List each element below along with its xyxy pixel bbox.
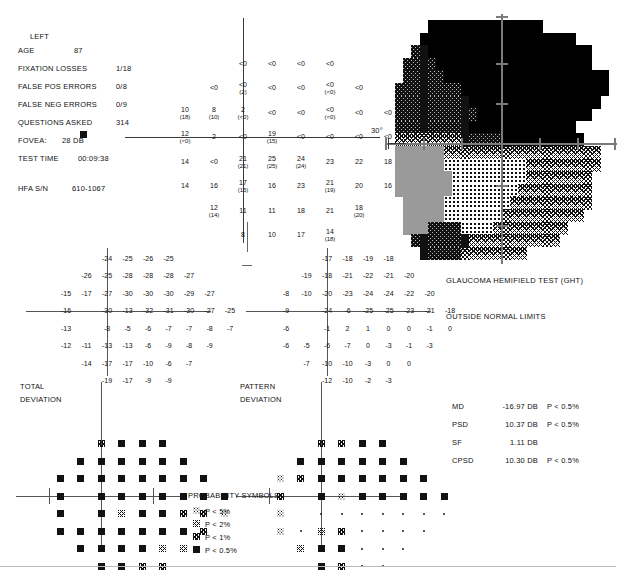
total-deviation-numeric-plot: -24-25-26-25-26-25-28-28-28-27-15-17-27-… — [8, 248, 220, 378]
threshold-value: <0 — [346, 109, 372, 116]
total-deviation-value: -13 — [56, 325, 76, 332]
pattern-deviation-value: -6 — [317, 342, 337, 349]
index-pvalue-cpsd: P < 0.5% — [547, 457, 579, 465]
pattern-deviation-value: 0 — [399, 325, 419, 332]
pattern-deviation-value: -7 — [297, 360, 317, 367]
total-deviation-probability-symbol — [98, 545, 105, 552]
pattern-deviation-value: 1 — [358, 325, 378, 332]
probability-legend-entry: P < 5% — [193, 505, 303, 517]
pattern-deviation-value: -22 — [358, 272, 378, 279]
threshold-retest-value: (18) — [317, 236, 343, 242]
total-deviation-title-line1: TOTAL — [20, 383, 44, 391]
total-deviation-value: -17 — [77, 290, 97, 297]
threshold-value: 16 — [259, 182, 285, 189]
threshold-value: 20 — [346, 182, 372, 189]
pattern-deviation-probability-symbol — [318, 493, 325, 500]
probability-legend-symbol-p2 — [193, 520, 200, 527]
total-deviation-value: -28 — [159, 272, 179, 279]
pattern-deviation-value: -22 — [399, 290, 419, 297]
pattern-deviation-probability-symbol — [297, 458, 304, 465]
total-deviation-probability-symbol — [139, 545, 146, 552]
field-label-hfa-s-n: HFA S/N — [18, 185, 48, 193]
total-deviation-probability-symbol — [57, 528, 64, 535]
total-deviation-probability-symbol — [139, 458, 146, 465]
pattern-deviation-value: -10 — [317, 360, 337, 367]
threshold-value: 10 — [172, 106, 198, 113]
total-deviation-value: -7 — [179, 325, 199, 332]
pattern-deviation-value: -1 — [317, 325, 337, 332]
grayscale-tick-u1 — [496, 63, 508, 65]
index-value-cpsd: 10.30 DB — [482, 457, 538, 465]
probability-legend-entry: P < 1% — [193, 531, 303, 543]
total-deviation-value: -32 — [138, 307, 158, 314]
probability-legend-text: P < 5% — [205, 508, 230, 516]
total-deviation-probability-symbol — [159, 458, 166, 465]
threshold-retest-value: (15) — [230, 187, 256, 193]
pattern-deviation-probability-symbol — [443, 513, 445, 515]
grayscale-tick-r3 — [614, 138, 616, 150]
pattern-deviation-value: -1 — [420, 325, 440, 332]
pattern-deviation-probability-symbol — [382, 513, 384, 515]
pattern-deviation-probability-symbol — [359, 493, 366, 500]
total-deviation-probability-plot — [20, 400, 195, 550]
grayscale-cell — [584, 108, 593, 121]
pattern-deviation-value: 0 — [379, 360, 399, 367]
total-deviation-value: -6 — [138, 342, 158, 349]
total-deviation-probability-symbol — [139, 493, 146, 500]
total-deviation-probability-symbol — [98, 440, 105, 447]
total-deviation-probability-symbol — [159, 440, 166, 447]
grayscale-cell — [567, 33, 576, 46]
total-deviation-value: -9 — [159, 342, 179, 349]
pattern-deviation-probability-symbol — [379, 458, 386, 465]
total-deviation-value: -10 — [138, 360, 158, 367]
pattern-deviation-value: -24 — [358, 290, 378, 297]
pattern-deviation-probability-symbol — [423, 513, 425, 515]
threshold-value: 16 — [201, 182, 227, 189]
threshold-retest-value: (24) — [288, 163, 314, 169]
pattern-deviation-probability-symbol — [379, 493, 386, 500]
threshold-retest-value: (19) — [317, 187, 343, 193]
total-deviation-probability-symbol — [57, 475, 64, 482]
threshold-retest-value: (<0) — [317, 89, 343, 95]
total-deviation-probability-symbol — [98, 458, 105, 465]
footer-divider — [0, 566, 616, 567]
total-deviation-value: -14 — [77, 360, 97, 367]
pattern-deviation-probability-symbol — [297, 475, 304, 482]
threshold-value: <0 — [230, 81, 256, 88]
probability-legend-text: P < 0.5% — [205, 547, 237, 555]
total-deviation-value: -27 — [97, 290, 117, 297]
threshold-tick-bottom — [243, 220, 244, 225]
threshold-value: 21 — [230, 155, 256, 162]
threshold-value: 2 — [201, 133, 227, 140]
pattern-deviation-probability-symbol — [379, 475, 386, 482]
probability-legend-symbol-solid — [193, 546, 200, 553]
grayscale-tick-r2 — [577, 138, 579, 150]
total-deviation-value: -15 — [56, 290, 76, 297]
total-deviation-value: -8 — [97, 325, 117, 332]
total-deviation-value: -28 — [118, 272, 138, 279]
pattern-deviation-value: -19 — [358, 255, 378, 262]
threshold-value: <0 — [317, 60, 343, 67]
grayscale-tick-top — [496, 16, 508, 18]
pattern-deviation-value: 0 — [379, 325, 399, 332]
grayscale-cell — [534, 20, 543, 33]
threshold-value: <0 — [288, 133, 314, 140]
total-deviation-value: -13 — [97, 342, 117, 349]
threshold-value: <0 — [259, 109, 285, 116]
pattern-deviation-value: -7 — [338, 342, 358, 349]
field-value-test-time: 00:09:38 — [78, 155, 109, 163]
pattern-deviation-value: -3 — [379, 377, 399, 384]
grayscale-tick-u2 — [496, 103, 508, 105]
total-deviation-value: -5 — [118, 325, 138, 332]
total-deviation-value: -9 — [200, 342, 220, 349]
threshold-value: 2 — [230, 106, 256, 113]
pattern-deviation-value: -6 — [338, 307, 358, 314]
total-deviation-value: -25 — [97, 272, 117, 279]
field-value-false-pos-errors: 0/8 — [116, 83, 127, 91]
grayscale-tick-l2 — [423, 138, 425, 150]
grayscale-cell — [518, 247, 527, 260]
grayscale-cell — [584, 196, 593, 209]
field-value-false-neg-errors: 0/9 — [116, 101, 127, 109]
threshold-value: 10 — [259, 231, 285, 238]
pattern-deviation-probability-symbol — [341, 513, 343, 515]
